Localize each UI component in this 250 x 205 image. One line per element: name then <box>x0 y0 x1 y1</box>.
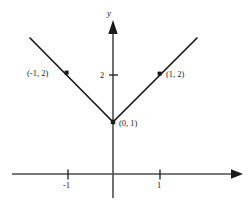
point-label-0-1: (0, 1) <box>119 119 137 128</box>
x-axis-label: x <box>234 169 238 178</box>
y-axis-label: y <box>107 9 111 18</box>
marker-point-1-2 <box>158 72 162 76</box>
x-tick-label-neg1: -1 <box>63 181 70 190</box>
y-tick-label-2: 2 <box>100 71 104 80</box>
plot-canvas <box>0 0 250 205</box>
point-label-1-2: (1, 2) <box>166 70 184 79</box>
x-tick-label-1: 1 <box>157 181 161 190</box>
marker-point-neg1-2 <box>65 71 69 75</box>
graph-figure: (-1, 2) (1, 2) (0, 1) 2 -1 1 x y <box>0 0 250 205</box>
point-label-neg1-2: (-1, 2) <box>27 69 48 78</box>
curve-left-arm <box>30 38 113 122</box>
marker-point-0-1 <box>111 120 115 124</box>
curve-right-arm <box>113 38 197 122</box>
y-axis-arrowhead <box>108 20 117 34</box>
